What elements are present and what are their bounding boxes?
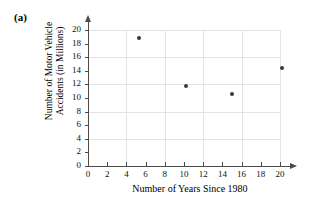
y-axis-tick (85, 57, 89, 58)
x-axis-line (88, 166, 292, 167)
y-axis-tick (85, 112, 89, 113)
y-axis-title-line-1: Number of Motor Vehicle (44, 0, 55, 146)
gridline-horizontal (88, 112, 280, 113)
x-axis-tick-label: 20 (270, 169, 290, 179)
y-axis-tick (85, 84, 89, 85)
gridline-horizontal (88, 30, 280, 31)
panel-label: (a) (14, 11, 27, 23)
gridline-vertical (165, 30, 166, 166)
x-axis-tick (242, 162, 243, 166)
x-axis-tick-label: 4 (116, 169, 136, 179)
gridline-horizontal (88, 139, 280, 140)
y-axis-tick (85, 166, 89, 167)
gridline-vertical (126, 30, 127, 166)
x-axis-arrow-icon (290, 163, 297, 169)
plot-area (88, 30, 280, 166)
data-point (184, 84, 188, 88)
x-axis-title: Number of Years Since 1980 (88, 183, 292, 194)
x-axis-tick-label: 8 (155, 169, 175, 179)
y-axis-tick (85, 44, 89, 45)
y-axis-tick (85, 152, 89, 153)
x-axis-tick-label: 0 (78, 169, 98, 179)
gridline-vertical (203, 30, 204, 166)
x-axis-tick-label: 14 (212, 169, 232, 179)
x-axis-tick-label: 16 (232, 169, 252, 179)
data-point (280, 66, 284, 70)
y-axis-tick (85, 139, 89, 140)
y-axis-tick (85, 98, 89, 99)
y-axis-tick-label: 0 (63, 160, 81, 170)
x-axis-tick-label: 18 (251, 169, 271, 179)
x-axis-tick (203, 162, 204, 166)
y-axis-arrow-icon (85, 15, 91, 22)
x-axis-tick (222, 162, 223, 166)
x-axis-tick (165, 162, 166, 166)
y-axis-tick (85, 30, 89, 31)
x-axis-tick-label: 6 (136, 169, 156, 179)
data-point (230, 92, 234, 96)
x-axis-tick (261, 162, 262, 166)
grid (88, 30, 280, 166)
gridline-vertical (280, 30, 281, 166)
y-axis-tick (85, 71, 89, 72)
y-axis-tick-label: 2 (63, 146, 81, 156)
y-axis-title: Number of Motor Vehicle Accidents (in Mi… (44, 0, 66, 146)
x-axis-tick (107, 162, 108, 166)
x-axis-tick (146, 162, 147, 166)
x-axis-tick-label: 10 (174, 169, 194, 179)
x-axis-tick (184, 162, 185, 166)
y-axis-title-line-2: Accidents (in Millions) (55, 0, 66, 146)
x-axis-tick-label: 2 (97, 169, 117, 179)
x-axis-tick (126, 162, 127, 166)
gridline-vertical (242, 30, 243, 166)
data-point (137, 36, 141, 40)
x-axis-tick (280, 162, 281, 166)
x-axis-tick-label: 12 (193, 169, 213, 179)
gridline-horizontal (88, 57, 280, 58)
chart-figure: (a) 0246810121416182002468101214161820 N… (0, 0, 317, 207)
y-axis-tick (85, 125, 89, 126)
